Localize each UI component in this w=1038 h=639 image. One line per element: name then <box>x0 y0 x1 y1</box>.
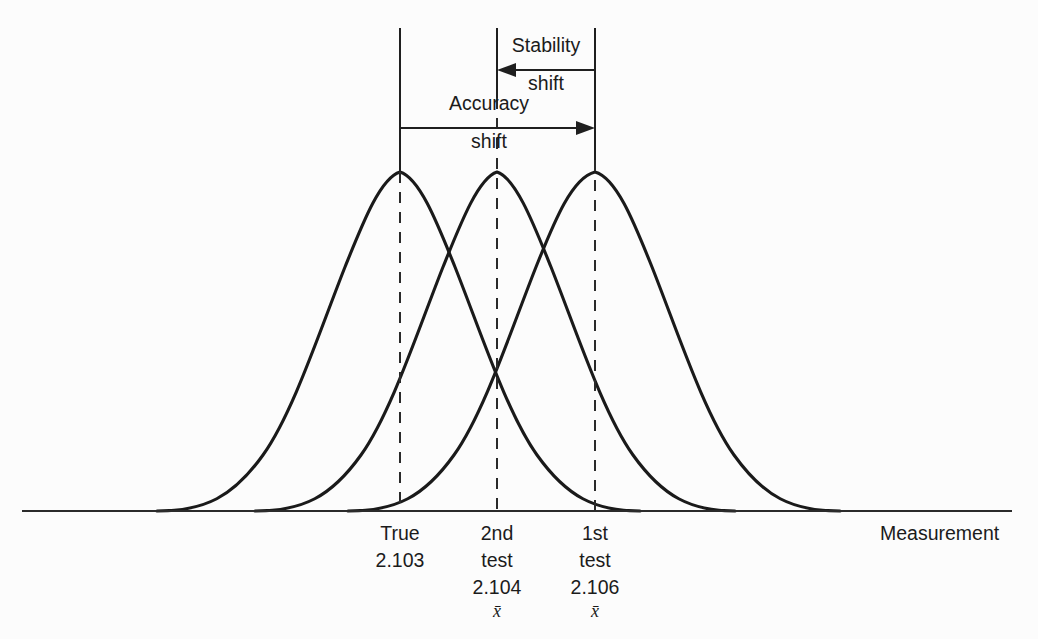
tick-1st-test-line1: 1st <box>582 522 609 544</box>
curve-2nd-test-2-104 <box>255 172 735 511</box>
curve-true-2-103 <box>157 172 640 511</box>
stability-shift-annotation: Stability shift <box>497 34 595 94</box>
accuracy-shift-label-line1: Accuracy <box>449 92 529 114</box>
tick-label-true: True 2.103 <box>376 522 425 571</box>
figure-canvas: Stability shift Accuracy shift True 2.10… <box>0 0 1038 639</box>
distribution-curves <box>157 172 840 511</box>
stability-shift-label-line2: shift <box>528 72 564 94</box>
tick-true-line1: True <box>380 522 419 544</box>
accuracy-shift-label-line2: shift <box>471 130 507 152</box>
tick-2nd-test-xbar: x̄ <box>492 601 501 621</box>
measurement-shift-diagram: Stability shift Accuracy shift True 2.10… <box>0 0 1038 639</box>
accuracy-shift-arrow-head <box>576 121 595 135</box>
tick-2nd-test-value: 2.104 <box>473 576 522 598</box>
tick-label-1st-test: 1st test 2.106 x̄ <box>571 522 620 621</box>
tick-true-value: 2.103 <box>376 549 425 571</box>
stability-shift-label-line1: Stability <box>512 34 581 56</box>
measurement-axis-label: Measurement <box>880 522 1000 544</box>
tick-2nd-test-line2: test <box>481 549 513 571</box>
tick-label-2nd-test: 2nd test 2.104 x̄ <box>473 522 522 621</box>
stability-shift-arrow-head <box>497 63 516 77</box>
tick-1st-test-value: 2.106 <box>571 576 620 598</box>
tick-1st-test-xbar: x̄ <box>590 601 599 621</box>
tick-1st-test-line2: test <box>579 549 611 571</box>
tick-2nd-test-line1: 2nd <box>481 522 514 544</box>
